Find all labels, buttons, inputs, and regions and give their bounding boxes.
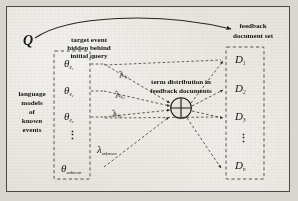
document-3-symbol: D (235, 110, 243, 122)
query-symbol: Q (23, 33, 33, 49)
mixture-node-label-line2: feedback documents (133, 88, 229, 96)
theta-model-1: θe₁ (64, 57, 74, 71)
document-2: D2 (235, 82, 246, 96)
language-models-caption-line2: models (11, 100, 53, 108)
feedback-documents-ellipsis: ⋮ (238, 135, 248, 141)
lambda-weight-unknown: λunknown (97, 143, 117, 157)
theta-model-2: θe₂ (64, 84, 74, 98)
document-n: Dn (235, 159, 246, 173)
language-models-ellipsis: ⋮ (67, 132, 77, 138)
mixture-node-circle (171, 98, 192, 119)
edge-mixture-to-doc-n (187, 118, 221, 168)
language-models-caption-line4: known (11, 118, 53, 126)
theta-model-unknown: θunknown (61, 162, 81, 176)
document-2-symbol: D (235, 82, 243, 94)
arc-query-to-feedback-set (35, 18, 231, 38)
language-models-caption-line5: events (11, 127, 53, 135)
lambda-weight-unknown-subscript: unknown (102, 151, 117, 156)
document-n-symbol: D (235, 159, 243, 171)
edge-lambda-unknown-to-mixture (104, 117, 169, 167)
edge-long-top (105, 60, 221, 65)
scanned-figure-panel: Q target event hidden behind initial que… (6, 6, 290, 192)
feedback-set-caption-line2: document set (212, 33, 294, 41)
theta-model-3-subscript: e₃ (69, 117, 73, 123)
figure-canvas: Q target event hidden behind initial que… (0, 0, 298, 201)
document-3: D3 (235, 110, 246, 124)
feedback-set-caption-line1: feedback (220, 23, 286, 31)
document-2-subscript: 2 (243, 89, 246, 95)
lambda-weight-1-subscript: e₁ (124, 73, 129, 80)
theta-model-unknown-subscript: unknown (66, 170, 81, 175)
language-models-caption-line1: language (11, 91, 53, 99)
document-1-symbol: D (235, 53, 243, 65)
document-1: D1 (235, 53, 246, 67)
language-models-caption-line3: of (11, 109, 53, 117)
lambda-weight-3-subscript: e₃ (117, 112, 122, 119)
document-n-subscript: n (243, 166, 246, 172)
theta-model-1-subscript: e₁ (69, 64, 73, 70)
theta-model-3: θe₃ (64, 110, 74, 124)
lambda-weight-2-subscript: e₂ (120, 93, 125, 100)
document-3-subscript: 3 (243, 117, 246, 123)
theta-model-2-subscript: e₂ (69, 91, 73, 97)
document-1-subscript: 1 (243, 60, 246, 66)
mixture-node-label-line1: term distribution in (133, 79, 229, 87)
